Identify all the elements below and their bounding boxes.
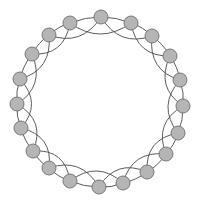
nodes [10, 10, 190, 194]
node-3 [163, 49, 177, 63]
node-14 [14, 121, 28, 135]
node-10 [92, 180, 106, 194]
node-0 [94, 10, 108, 24]
ring-lattice-diagram [0, 0, 198, 201]
node-6 [171, 126, 185, 140]
node-12 [42, 161, 56, 175]
node-13 [26, 144, 40, 158]
node-17 [25, 47, 39, 61]
node-8 [140, 165, 154, 179]
edges [17, 17, 184, 187]
node-4 [173, 73, 187, 87]
node-15 [10, 97, 24, 111]
edge-19-1 [70, 23, 131, 34]
node-18 [42, 28, 56, 42]
node-7 [159, 147, 173, 161]
node-5 [176, 99, 190, 113]
node-19 [63, 16, 77, 30]
node-2 [145, 29, 159, 43]
node-9 [116, 176, 130, 190]
node-16 [13, 72, 27, 86]
node-1 [124, 16, 138, 30]
node-11 [63, 174, 77, 188]
